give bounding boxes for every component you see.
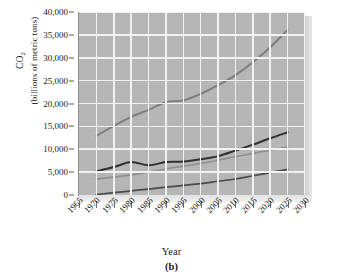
figure-panel: CO2 (billions of metric tons) 05,00010,0…	[0, 0, 343, 278]
y-tick-label: 5,000	[48, 168, 68, 177]
y-tick-mark	[69, 126, 74, 127]
y-tick-label: 15,000	[43, 122, 68, 131]
y-tick-label: 10,000	[43, 145, 68, 154]
gridline-vertical	[96, 12, 98, 195]
y-tick-mark	[69, 12, 74, 13]
y-tick-label: 25,000	[43, 76, 68, 85]
y-tick-mark	[69, 195, 74, 196]
y-axis-tick-labels: 05,00010,00015,00020,00025,00030,00035,0…	[26, 12, 74, 195]
figure-caption: (b)	[0, 261, 343, 272]
y-tick-mark	[69, 103, 74, 104]
gridline-vertical	[200, 12, 202, 195]
plot-area	[79, 12, 305, 195]
gridline-vertical	[130, 12, 132, 195]
y-tick-mark	[69, 34, 74, 35]
y-axis-title-co2: CO	[15, 56, 25, 69]
gridline-vertical	[217, 12, 219, 195]
gridline-vertical	[183, 12, 185, 195]
gridline-vertical	[287, 12, 289, 195]
gridline-vertical	[252, 12, 254, 195]
gridline-vertical	[269, 12, 271, 195]
gridline-vertical	[113, 12, 115, 195]
y-tick-label: 20,000	[43, 99, 68, 108]
panel-right-edge	[305, 16, 312, 199]
y-tick-label: 40,000	[43, 8, 68, 17]
y-tick-mark	[69, 172, 74, 173]
gridline-vertical	[148, 12, 150, 195]
y-tick-mark	[69, 149, 74, 150]
y-tick-mark	[69, 80, 74, 81]
y-tick-label: 30,000	[43, 53, 68, 62]
x-axis-title: Year	[0, 246, 343, 257]
x-axis-tick-labels: 1965197019751980198519901995200020052010…	[0, 208, 343, 248]
y-tick-label: 0	[64, 191, 69, 200]
gridline-vertical	[165, 12, 167, 195]
gridline-vertical	[235, 12, 237, 195]
y-tick-mark	[69, 57, 74, 58]
y-tick-label: 35,000	[43, 30, 68, 39]
gridline-vertical	[304, 12, 305, 195]
